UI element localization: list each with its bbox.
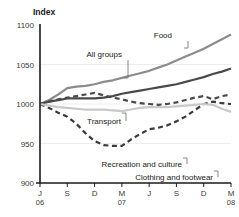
leader-line-food [184,41,188,48]
x-tick-year-label: 08 [227,198,235,207]
leader-line-all-groups [124,60,128,78]
x-tick-year-label: 06 [36,198,44,207]
y-tick-label: 900 [21,179,35,188]
series-label-recreation-and-culture: Recreation and culture [102,160,183,169]
y-tick-label: 950 [21,140,35,149]
y-tick-label: 1050 [16,61,34,70]
leader-line-clothing-and-footwear [214,171,218,177]
series-label-all-groups: All groups [86,50,122,59]
x-tick-label: M [228,189,235,198]
series-line-food [40,34,231,104]
x-axis-tick-labels: J06SDM07JSDM08 [36,183,235,207]
series-label-food: Food [154,31,172,40]
leader-line-recreation-and-culture [183,158,187,164]
x-tick-label: S [174,189,179,198]
y-tick-label: 1100 [17,21,35,30]
series-label-transport: Transport [87,117,122,126]
y-axis-tick-labels: 110010501000950900 [16,21,34,188]
x-tick-label: D [201,189,207,198]
x-tick-label: D [92,189,98,198]
x-tick-label: M [119,189,126,198]
series-label-clothing-and-footwear: Clothing and footwear [135,173,213,182]
series-lines [40,34,231,145]
y-tick-label: 1000 [16,100,34,109]
x-tick-label: J [147,189,151,198]
series-line-clothing-and-footwear [40,104,231,112]
x-tick-label: J [38,189,42,198]
chart-container: 110010501000950900 J06SDM07JSDM08 FoodAl… [0,0,239,217]
leader-line-transport [122,113,126,121]
x-tick-year-label: 07 [118,198,126,207]
x-tick-label: S [65,189,70,198]
y-axis-title: Index [33,7,55,17]
index-line-chart: 110010501000950900 J06SDM07JSDM08 FoodAl… [0,0,239,217]
